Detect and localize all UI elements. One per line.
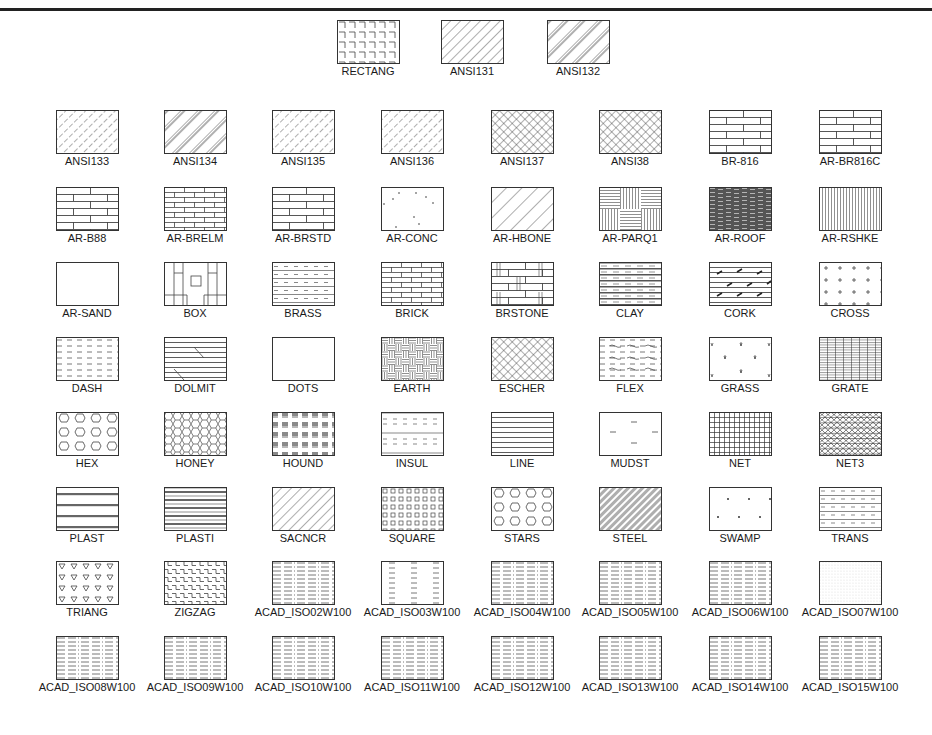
hatch-pattern-acad-iso06w100[interactable]: ACAD_ISO06W100 [685, 561, 795, 619]
hatch-pattern-ar-b88[interactable]: AR-B88 [32, 187, 142, 245]
hatch-pattern-ar-roof[interactable]: AR-ROOF [685, 187, 795, 245]
hatch-pattern-acad-iso12w100[interactable]: ACAD_ISO12W100 [467, 636, 577, 694]
pattern-swatch [56, 412, 119, 456]
hatch-pattern-hound[interactable]: HOUND [248, 412, 358, 470]
pattern-swatch [164, 636, 227, 680]
pattern-label: INSUL [357, 457, 467, 470]
pattern-label: ACAD_ISO02W100 [248, 606, 358, 619]
hatch-pattern-ansi134[interactable]: ANSI134 [140, 110, 250, 168]
hatch-pattern-ansi38[interactable]: ANSI38 [575, 110, 685, 168]
pattern-label: AR-ROOF [685, 232, 795, 245]
pattern-swatch [599, 487, 662, 531]
hatch-pattern-grate[interactable]: GRATE [795, 337, 905, 395]
hatch-pattern-ar-brelm[interactable]: AR-BRELM [140, 187, 250, 245]
hatch-pattern-acad-iso13w100[interactable]: ACAD_ISO13W100 [575, 636, 685, 694]
pattern-swatch [164, 110, 227, 154]
hatch-pattern-ansi133[interactable]: ANSI133 [32, 110, 142, 168]
hatch-pattern-acad-iso02w100[interactable]: ACAD_ISO02W100 [248, 561, 358, 619]
hatch-pattern-net[interactable]: NET [685, 412, 795, 470]
hatch-pattern-cross[interactable]: CROSS [795, 262, 905, 320]
hatch-pattern-acad-iso09w100[interactable]: ACAD_ISO09W100 [140, 636, 250, 694]
pattern-label: STEEL [575, 532, 685, 545]
hatch-pattern-ar-br816c[interactable]: AR-BR816C [795, 110, 905, 168]
hatch-pattern-plast[interactable]: PLAST [32, 487, 142, 545]
pattern-label: PLAST [32, 532, 142, 545]
hatch-pattern-hex[interactable]: HEX [32, 412, 142, 470]
hatch-pattern-net3[interactable]: NET3 [795, 412, 905, 470]
pattern-label: TRIANG [32, 606, 142, 619]
hatch-pattern-acad-iso05w100[interactable]: ACAD_ISO05W100 [575, 561, 685, 619]
pattern-swatch [381, 412, 444, 456]
pattern-label: CLAY [575, 307, 685, 320]
hatch-pattern-plasti[interactable]: PLASTI [140, 487, 250, 545]
hatch-pattern-ansi132[interactable]: ANSI132 [523, 20, 633, 78]
hatch-pattern-swamp[interactable]: SWAMP [685, 487, 795, 545]
pattern-swatch [819, 187, 882, 231]
hatch-pattern-ar-hbone[interactable]: AR-HBONE [467, 187, 577, 245]
hatch-pattern-triang[interactable]: TRIANG [32, 561, 142, 619]
pattern-swatch [56, 337, 119, 381]
pattern-swatch [709, 110, 772, 154]
hatch-pattern-acad-iso07w100[interactable]: ACAD_ISO07W100 [795, 561, 905, 619]
pattern-swatch [599, 262, 662, 306]
hatch-pattern-acad-iso11w100[interactable]: ACAD_ISO11W100 [357, 636, 467, 694]
hatch-pattern-trans[interactable]: TRANS [795, 487, 905, 545]
pattern-swatch [709, 412, 772, 456]
hatch-pattern-zigzag[interactable]: ZIGZAG [140, 561, 250, 619]
pattern-label: DASH [32, 382, 142, 395]
pattern-swatch [56, 110, 119, 154]
hatch-pattern-acad-iso08w100[interactable]: ACAD_ISO08W100 [32, 636, 142, 694]
pattern-label: HOUND [248, 457, 358, 470]
hatch-pattern-ansi136[interactable]: ANSI136 [357, 110, 467, 168]
hatch-pattern-earth[interactable]: EARTH [357, 337, 467, 395]
hatch-pattern-dolmit[interactable]: DOLMIT [140, 337, 250, 395]
pattern-label: ACAD_ISO07W100 [795, 606, 905, 619]
pattern-label: BRASS [248, 307, 358, 320]
hatch-pattern-ar-rshke[interactable]: AR-RSHKE [795, 187, 905, 245]
pattern-swatch [491, 561, 554, 605]
hatch-pattern-ansi131[interactable]: ANSI131 [417, 20, 527, 78]
hatch-pattern-ar-sand[interactable]: AR-SAND [32, 262, 142, 320]
hatch-pattern-brstone[interactable]: BRSTONE [467, 262, 577, 320]
pattern-swatch [819, 110, 882, 154]
hatch-pattern-ar-brstd[interactable]: AR-BRSTD [248, 187, 358, 245]
hatch-pattern-ansi135[interactable]: ANSI135 [248, 110, 358, 168]
hatch-pattern-box[interactable]: BOX [140, 262, 250, 320]
hatch-pattern-ansi137[interactable]: ANSI137 [467, 110, 577, 168]
hatch-pattern-steel[interactable]: STEEL [575, 487, 685, 545]
hatch-pattern-acad-iso10w100[interactable]: ACAD_ISO10W100 [248, 636, 358, 694]
pattern-label: ACAD_ISO06W100 [685, 606, 795, 619]
pattern-swatch [819, 262, 882, 306]
pattern-swatch [491, 412, 554, 456]
pattern-label: ESCHER [467, 382, 577, 395]
hatch-pattern-acad-iso04w100[interactable]: ACAD_ISO04W100 [467, 561, 577, 619]
hatch-pattern-rectang[interactable]: RECTANG [313, 20, 423, 78]
hatch-pattern-honey[interactable]: HONEY [140, 412, 250, 470]
hatch-pattern-br-816[interactable]: BR-816 [685, 110, 795, 168]
pattern-swatch [272, 262, 335, 306]
hatch-pattern-ar-conc[interactable]: AR-CONC [357, 187, 467, 245]
hatch-pattern-dots[interactable]: DOTS [248, 337, 358, 395]
hatch-pattern-dash[interactable]: DASH [32, 337, 142, 395]
hatch-pattern-square[interactable]: SQUARE [357, 487, 467, 545]
hatch-pattern-ar-parq1[interactable]: AR-PARQ1 [575, 187, 685, 245]
hatch-pattern-clay[interactable]: CLAY [575, 262, 685, 320]
hatch-pattern-escher[interactable]: ESCHER [467, 337, 577, 395]
pattern-label: PLASTI [140, 532, 250, 545]
hatch-pattern-acad-iso03w100[interactable]: ACAD_ISO03W100 [357, 561, 467, 619]
hatch-pattern-cork[interactable]: CORK [685, 262, 795, 320]
pattern-swatch [272, 110, 335, 154]
hatch-pattern-acad-iso14w100[interactable]: ACAD_ISO14W100 [685, 636, 795, 694]
hatch-pattern-acad-iso15w100[interactable]: ACAD_ISO15W100 [795, 636, 905, 694]
hatch-pattern-brass[interactable]: BRASS [248, 262, 358, 320]
hatch-pattern-sacncr[interactable]: SACNCR [248, 487, 358, 545]
hatch-pattern-insul[interactable]: INSUL [357, 412, 467, 470]
hatch-pattern-line[interactable]: LINE [467, 412, 577, 470]
pattern-label: ACAD_ISO05W100 [575, 606, 685, 619]
hatch-pattern-brick[interactable]: BRICK [357, 262, 467, 320]
hatch-pattern-stars[interactable]: STARS [467, 487, 577, 545]
hatch-pattern-mudst[interactable]: MUDST [575, 412, 685, 470]
hatch-pattern-flex[interactable]: FLEX [575, 337, 685, 395]
hatch-pattern-grass[interactable]: GRASS [685, 337, 795, 395]
pattern-label: ACAD_ISO12W100 [467, 681, 577, 694]
